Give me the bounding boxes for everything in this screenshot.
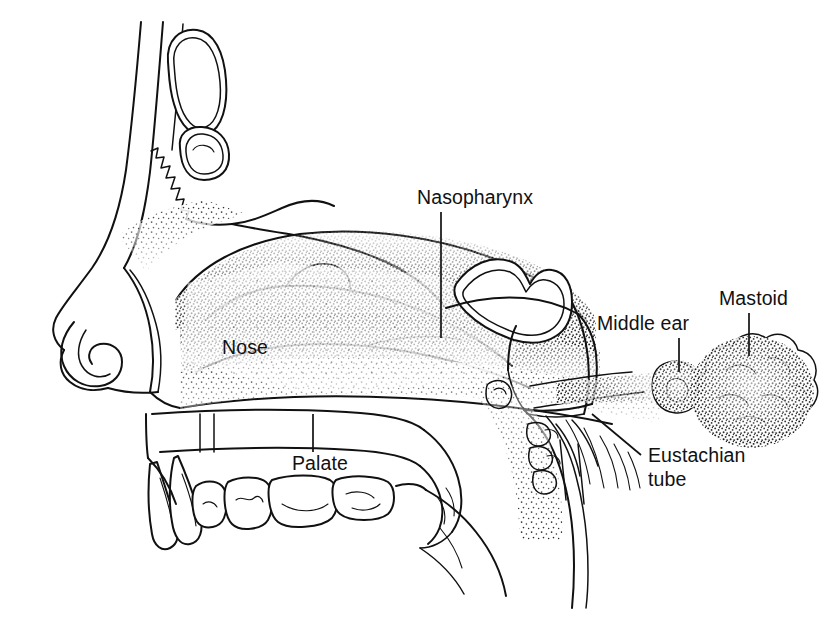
label-middle-ear: Middle ear [597,312,689,334]
anatomy-illustration: Nasopharynx Mastoid Middle ear Nose Pala… [0,0,823,626]
label-eustachian-line2: tube [648,468,686,490]
label-nasopharynx: Nasopharynx [417,186,533,208]
label-mastoid: Mastoid [719,287,788,309]
label-nose: Nose [222,336,268,358]
label-palate: Palate [292,452,348,474]
label-eustachian-line1: Eustachian [648,444,745,466]
mastoid-shading [690,336,814,448]
frontal-sinus-lower [180,127,229,180]
anatomy-figure: Nasopharynx Mastoid Middle ear Nose Pala… [0,0,823,626]
